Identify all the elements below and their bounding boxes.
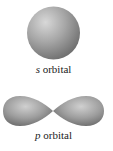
p-orbital-left-lobe [3, 96, 53, 126]
p-orbital-right-lobe [53, 96, 104, 126]
p-orbital-shape [3, 96, 104, 126]
p-word: orbital [41, 129, 72, 141]
p-orbital-label: p orbital [0, 129, 107, 141]
s-orbital-sphere [27, 7, 80, 60]
s-orbital-label: s orbital [0, 63, 107, 75]
s-word: orbital [40, 63, 71, 75]
